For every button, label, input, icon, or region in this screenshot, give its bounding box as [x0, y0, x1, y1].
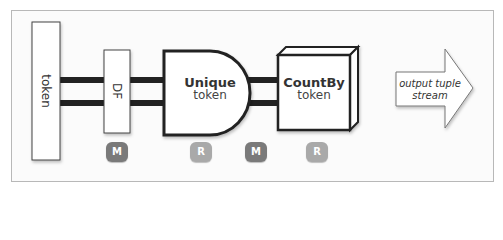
output-label: output tuple stream: [396, 78, 464, 102]
map-badge-1: M: [106, 142, 128, 162]
token-source-label: token: [39, 65, 53, 117]
output-line1: output tuple: [396, 78, 464, 90]
map-badge-2: M: [245, 142, 267, 162]
countby-subtitle: token: [276, 89, 352, 102]
unique-label: Unique token: [170, 76, 250, 102]
connector-df-unique: [130, 77, 165, 106]
connector-token-df: [60, 77, 104, 106]
df-label: DF: [110, 71, 124, 111]
unique-subtitle: token: [170, 89, 250, 102]
reduce-badge-2: R: [306, 142, 328, 162]
reduce-badge-1: R: [190, 142, 212, 162]
countby-label: CountBy token: [276, 76, 352, 102]
output-line2: stream: [396, 90, 464, 102]
